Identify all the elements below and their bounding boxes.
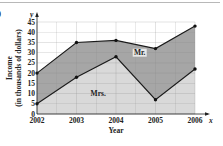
x-tick-label: 2004 xyxy=(109,116,124,125)
x-axis-letter: x xyxy=(208,116,213,125)
mrs-series-label: Mrs. xyxy=(91,89,106,98)
income-area-chart: 05101520253035404520022003200420052006yx… xyxy=(0,0,223,146)
y-axis-letter: y xyxy=(29,10,34,19)
data-point xyxy=(75,76,78,79)
y-tick-label: 10 xyxy=(28,89,36,98)
mr-series-label: Mr. xyxy=(134,48,146,57)
data-point xyxy=(193,67,196,70)
x-tick-label: 2003 xyxy=(69,116,84,125)
y-axis-title-line-1: Income xyxy=(5,55,14,79)
data-point xyxy=(154,47,157,50)
data-point xyxy=(75,41,78,44)
y-tick-label: 5 xyxy=(31,99,35,108)
y-tick-label: 25 xyxy=(28,58,36,67)
y-tick-label: 40 xyxy=(28,28,36,37)
y-tick-label: 35 xyxy=(28,38,36,47)
x-tick-label: 2005 xyxy=(148,116,163,125)
data-point xyxy=(154,98,157,101)
y-tick-label: 15 xyxy=(28,79,36,88)
data-point xyxy=(114,55,117,58)
x-tick-label: 2006 xyxy=(188,116,203,125)
data-point xyxy=(114,39,117,42)
x-tick-label: 2002 xyxy=(30,116,45,125)
y-axis-arrow-icon xyxy=(35,12,39,17)
y-tick-label: 30 xyxy=(28,48,36,57)
data-point xyxy=(193,24,196,27)
x-axis-title: Year xyxy=(109,126,125,135)
y-axis-title-line-2: (in thousands of dollars) xyxy=(14,29,23,107)
y-tick-label: 20 xyxy=(28,69,36,78)
